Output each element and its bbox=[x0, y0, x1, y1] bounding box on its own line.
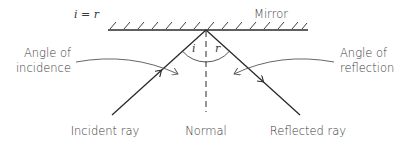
angle-incidence-label-2: incidence bbox=[16, 61, 71, 75]
angle-reflection-label-2: reflection bbox=[340, 61, 394, 75]
mirror-hatching bbox=[110, 22, 307, 29]
reflection-pointer bbox=[234, 59, 334, 74]
angle-incidence-label-1: Angle of bbox=[24, 46, 72, 60]
angle-r-symbol: r bbox=[215, 42, 221, 55]
reflection-diagram: i r i = r Mirror Angle of incidence Angl… bbox=[0, 0, 405, 145]
angle-reflection-label-1: Angle of bbox=[340, 46, 388, 60]
mirror bbox=[108, 22, 308, 30]
normal-label: Normal bbox=[185, 124, 227, 138]
incidence-pointer bbox=[76, 59, 178, 74]
reflected-ray-label: Reflected ray bbox=[270, 124, 347, 138]
equation-label: i = r bbox=[74, 8, 100, 21]
incident-ray-label: Incident ray bbox=[71, 124, 140, 138]
mirror-label: Mirror bbox=[254, 7, 288, 21]
angle-i-symbol: i bbox=[192, 42, 196, 55]
